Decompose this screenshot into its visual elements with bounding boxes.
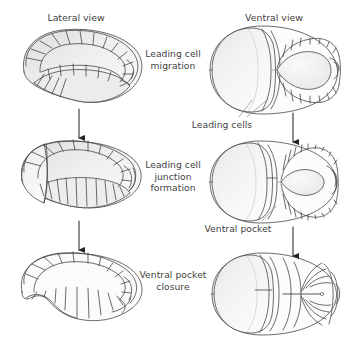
- figure-artwork: [0, 0, 347, 343]
- embryo-ventral-stage3: [212, 253, 340, 335]
- embryo-lateral-stage2: [21, 140, 141, 208]
- embryo-lateral-stage1: [23, 29, 141, 102]
- embryo-lateral-stage3: [21, 252, 142, 321]
- embryo-ventral-stage2: [210, 141, 338, 223]
- embryo-development-figure: Lateral view Ventral view Leading cell m…: [0, 0, 347, 343]
- embryo-ventral-stage1: [210, 26, 341, 114]
